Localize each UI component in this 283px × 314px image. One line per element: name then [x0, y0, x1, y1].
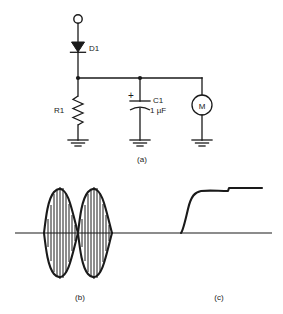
capacitor-branch [130, 78, 150, 146]
burst1-envelope-lower [44, 233, 78, 277]
resistor-branch [68, 78, 88, 146]
capacitor-label: C1 [153, 96, 164, 105]
waveform-b [15, 187, 272, 279]
ground-icon-r1 [68, 140, 88, 146]
burst2-envelope-lower [78, 233, 112, 277]
figure-container: D1 R1 [0, 0, 283, 314]
panel-label-c: (c) [214, 293, 224, 302]
diode-label: D1 [89, 44, 100, 53]
panel-label-a: (a) [137, 155, 147, 164]
input-terminal-icon [74, 15, 82, 23]
motor-branch [192, 78, 212, 146]
resistor-label: R1 [54, 106, 65, 115]
diode-icon [71, 42, 86, 52]
panel-label-b: (b) [75, 293, 85, 302]
burst1-envelope-upper [44, 189, 78, 233]
detected-output-curve [181, 188, 262, 233]
capacitor-polarity-label: + [128, 90, 134, 101]
resistor-icon [73, 96, 83, 125]
waveform-c [181, 188, 262, 233]
figure-canvas: D1 R1 [0, 0, 283, 314]
ground-icon-motor [192, 140, 212, 146]
ground-icon-c1 [130, 140, 150, 146]
circuit-schematic: D1 R1 [54, 15, 212, 146]
motor-label: M [199, 102, 206, 111]
burst2-envelope-upper [78, 189, 112, 233]
capacitor-value: 1 µF [150, 106, 166, 115]
